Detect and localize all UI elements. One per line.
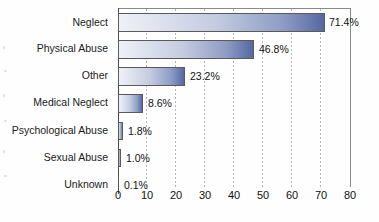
x-tick-30: 30 <box>199 189 211 202</box>
bar-psychological-abuse <box>118 122 123 140</box>
bar-neglect <box>118 13 325 32</box>
category-label-physical-abuse: Physical Abuse <box>37 43 108 54</box>
category-label-sexual-abuse: Sexual Abuse <box>44 152 108 163</box>
category-label-other: Other <box>82 70 108 81</box>
bar-medical-neglect <box>118 94 143 113</box>
value-label-medical-neglect: 8.6% <box>148 98 172 109</box>
bar-physical-abuse <box>118 40 254 59</box>
bar-sexual-abuse <box>118 149 121 167</box>
value-label-sexual-abuse: 1.0% <box>126 153 150 164</box>
gridline-40 <box>233 9 234 187</box>
category-label-neglect: Neglect <box>72 17 108 28</box>
x-axis: 0 10 20 30 40 50 60 70 80 <box>0 189 379 209</box>
bar-chart: Neglect Physical Abuse Other Medical Neg… <box>0 0 379 222</box>
value-label-physical-abuse: 46.8% <box>259 44 289 55</box>
x-tick-0: 0 <box>115 189 121 202</box>
bar-other <box>118 67 185 86</box>
gridline-20 <box>175 9 176 187</box>
x-tick-50: 50 <box>257 189 269 202</box>
x-tick-20: 20 <box>170 189 182 202</box>
x-tick-60: 60 <box>286 189 298 202</box>
x-tick-80: 80 <box>344 189 356 202</box>
value-label-other: 23.2% <box>190 71 220 82</box>
x-tick-40: 40 <box>228 189 240 202</box>
category-axis: Neglect Physical Abuse Other Medical Neg… <box>0 0 112 186</box>
value-label-neglect: 71.4% <box>329 17 359 28</box>
x-tick-70: 70 <box>315 189 327 202</box>
gridline-50 <box>262 9 263 187</box>
value-label-psychological-abuse: 1.8% <box>128 126 152 137</box>
x-tick-10: 10 <box>141 189 153 202</box>
category-label-psychological-abuse: Psychological Abuse <box>12 125 108 136</box>
gridline-60 <box>291 9 292 187</box>
gridline-70 <box>320 9 321 187</box>
gridline-30 <box>204 9 205 187</box>
category-label-medical-neglect: Medical Neglect <box>33 97 108 108</box>
